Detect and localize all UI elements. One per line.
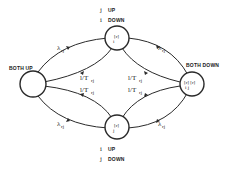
top-caption-1-var: j bbox=[99, 6, 102, 14]
label-down-to-top: l/T rj bbox=[128, 74, 142, 83]
svg-text:rj: rj bbox=[61, 48, 64, 53]
svg-text:rj: rj bbox=[139, 78, 142, 83]
label-bottom-to-down: λ rj bbox=[158, 120, 165, 129]
bottom-caption-2-text: DOWN bbox=[108, 156, 125, 162]
label-up-to-bottom-rate: l/T rj bbox=[80, 86, 94, 95]
both-down-inner-bottom: i j bbox=[185, 85, 189, 90]
svg-text:l/T: l/T bbox=[128, 74, 137, 82]
top-caption-1-text: UP bbox=[108, 7, 116, 13]
label-up-to-bottom: λ rj bbox=[57, 120, 64, 129]
node-both-up bbox=[20, 71, 46, 97]
label-top-to-up: l/T rj bbox=[80, 74, 94, 83]
svg-text:rj: rj bbox=[61, 124, 64, 129]
edge-up-to-top bbox=[38, 38, 108, 72]
label-up-to-top: λ rj bbox=[57, 44, 64, 53]
bottom-node-inner-top: [r] bbox=[114, 123, 119, 128]
svg-text:l/T: l/T bbox=[80, 74, 89, 82]
svg-text:rj: rj bbox=[91, 90, 94, 95]
state-transition-diagram: BOTH UP BOTH DOWN [r] i [r] j [r] [r] i … bbox=[0, 0, 238, 173]
both-down-label: BOTH DOWN bbox=[186, 62, 219, 68]
svg-text:rj: rj bbox=[91, 78, 94, 83]
arrow-icon bbox=[144, 71, 148, 75]
bottom-caption-1-var: i bbox=[100, 145, 102, 153]
edge-up-to-bottom-rate bbox=[44, 86, 112, 118]
bottom-caption-2-var: j bbox=[99, 155, 102, 163]
top-caption-2-text: DOWN bbox=[108, 17, 125, 23]
svg-text:rj: rj bbox=[162, 124, 165, 129]
edge-top-to-up bbox=[44, 48, 112, 82]
top-caption-2-var: i bbox=[100, 16, 102, 24]
edge-up-to-bottom bbox=[38, 96, 108, 128]
top-node-inner-top: [r] bbox=[114, 34, 119, 39]
bottom-node-inner-bottom: j bbox=[112, 128, 114, 133]
both-up-label: BOTH UP bbox=[9, 65, 33, 71]
label-down-to-bottom: l/T rj bbox=[128, 86, 142, 95]
bottom-caption-1-text: UP bbox=[108, 146, 116, 152]
svg-text:rj: rj bbox=[139, 90, 142, 95]
label-top-to-down: λ rj bbox=[158, 44, 165, 53]
svg-text:l/T: l/T bbox=[128, 86, 137, 94]
svg-text:rj: rj bbox=[162, 48, 165, 53]
svg-text:l/T: l/T bbox=[80, 86, 89, 94]
